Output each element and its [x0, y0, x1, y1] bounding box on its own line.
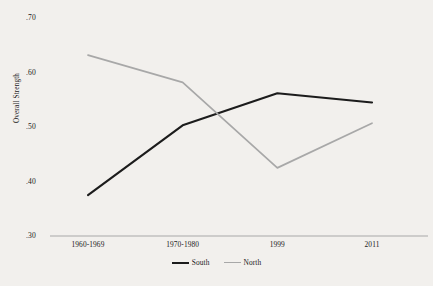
x-tick-label: 1970-1980 — [166, 240, 199, 249]
chart-legend: South North — [0, 258, 433, 267]
legend-item-north[interactable]: North — [224, 258, 262, 267]
legend-item-south[interactable]: South — [172, 258, 210, 267]
chart-figure: Overall Strength .30.40.50.60.70 1960-19… — [0, 0, 433, 286]
x-tick-label: 1960-1969 — [72, 240, 105, 249]
x-tick-label: 2011 — [365, 240, 380, 249]
x-tick-label: 1999 — [270, 240, 285, 249]
legend-label-south: South — [192, 258, 210, 267]
legend-label-north: North — [244, 258, 262, 267]
legend-line-swatch-north — [224, 262, 241, 263]
legend-line-swatch-south — [172, 262, 189, 264]
series-line-north — [88, 55, 372, 168]
